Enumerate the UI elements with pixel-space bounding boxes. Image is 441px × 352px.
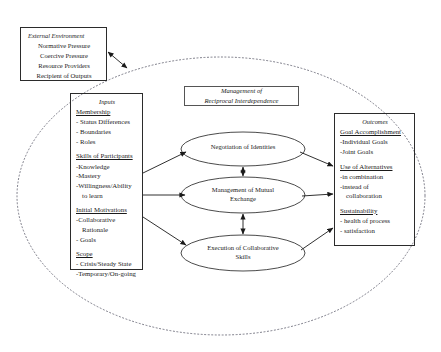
- external-environment-item: Recipient of Outputs: [26, 71, 102, 81]
- outcomes-box: Outcomes Goal Accomplishment -Individual…: [334, 113, 415, 246]
- diagram-canvas: External Environment Normative Pressure …: [0, 0, 441, 352]
- process-label-line1: Negotiation of Identities: [181, 142, 305, 151]
- diagram-title-line1: Management of: [204, 86, 278, 96]
- inputs-item: -Collaborative: [76, 215, 138, 225]
- inputs-item: to learn: [76, 191, 138, 201]
- diagram-title: Management of Reciprocal Interdependence: [204, 86, 278, 106]
- arrow-mutual-exchange-to-outcomes: [302, 194, 333, 196]
- external-environment-item: Normative Pressure: [26, 41, 102, 51]
- process-label-line1: Management of Mutual: [181, 185, 305, 194]
- label-negotiation-of-identities: Negotiation of Identities: [181, 142, 305, 151]
- external-environment-item: Resource Providers: [26, 61, 102, 71]
- inputs-caption: Inputs: [76, 97, 138, 106]
- process-label-line1: Execution of Collaborative: [181, 243, 305, 252]
- outcomes-item: -Individual Goals: [340, 137, 410, 147]
- process-label-line2: Exchange: [181, 194, 305, 203]
- diagram-title-box: Management of Reciprocal Interdependence: [184, 86, 299, 106]
- outcomes-group-header: Goal Accomplishment: [340, 127, 410, 137]
- arrow-external-environment-boundary: [108, 52, 127, 68]
- diagram-title-line2: Reciprocal Interdependence: [204, 96, 278, 106]
- outcomes-group-header: Use of Alternatives: [340, 162, 410, 172]
- outcomes-group-header: Sustainability: [340, 206, 410, 216]
- inputs-item: -Willingness/Ability: [76, 181, 138, 191]
- inputs-item: Rationale: [76, 225, 138, 235]
- inputs-item: -Temporary/On-going: [76, 269, 138, 279]
- outcomes-item: - health of process: [340, 216, 410, 226]
- outcomes-item: - satisfaction: [340, 226, 410, 236]
- inputs-group-header: Membership: [76, 107, 138, 117]
- label-management-of-mutual-exchange: Management of Mutual Exchange: [181, 185, 305, 203]
- external-environment-caption: External Environment: [26, 31, 102, 40]
- outcomes-item: -Joint Goals: [340, 147, 410, 157]
- external-environment-item: Coercive Pressure: [26, 51, 102, 61]
- inputs-item: - Boundaries: [76, 127, 138, 137]
- inputs-group-header: Skills of Participants: [76, 151, 138, 161]
- inputs-item: - Goals: [76, 235, 138, 245]
- external-environment-box: External Environment Normative Pressure …: [20, 27, 107, 81]
- outcomes-item: collaboration: [340, 191, 410, 201]
- arrow-negotiation-to-outcomes: [300, 152, 333, 166]
- outcomes-item: -in combination: [340, 172, 410, 182]
- inputs-item: - Roles: [76, 137, 138, 147]
- inputs-group-header: Initial Motivations: [76, 205, 138, 215]
- inputs-item: -Mastery: [76, 171, 138, 181]
- process-label-line2: Skills: [181, 252, 305, 261]
- label-execution-of-collaborative-skills: Execution of Collaborative Skills: [181, 243, 305, 261]
- outcomes-caption: Outcomes: [340, 117, 410, 126]
- arrow-inputs-to-negotiation: [143, 152, 186, 173]
- arrow-inputs-to-execution: [143, 217, 186, 245]
- outcomes-item: -instead of: [340, 182, 410, 192]
- arrow-execution-to-outcomes: [301, 228, 333, 250]
- inputs-item: - Status Differences: [76, 117, 138, 127]
- inputs-item: - Crisis/Steady State: [76, 259, 138, 269]
- inputs-item: -Knowledge: [76, 162, 138, 172]
- inputs-group-header: Scope: [76, 249, 138, 259]
- inputs-box: Inputs Membership - Status Differences -…: [70, 93, 143, 270]
